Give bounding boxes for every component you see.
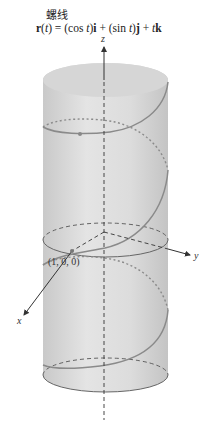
x-axis-label: x — [17, 315, 21, 326]
point-label: (1, 0, 0) — [48, 256, 80, 267]
helix-diagram — [0, 0, 215, 426]
y-axis-label: y — [194, 250, 198, 261]
point-1-0-0 — [70, 249, 74, 253]
helix-start-dot — [78, 132, 82, 136]
z-axis-label: z — [101, 33, 105, 44]
